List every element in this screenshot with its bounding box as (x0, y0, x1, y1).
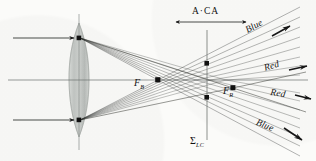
sigma-lc-label: ΣLC (190, 136, 204, 148)
blue-lower-arrow (284, 128, 302, 140)
chromatic-aberration-figure: A·CA FB FR ΣLC Blue Red Red Blue (0, 0, 316, 161)
red-lower-label: Red (270, 88, 287, 100)
aca-label: A·CA (192, 7, 219, 17)
lens-bottom-node-marker (77, 118, 82, 123)
focus-blue-marker (155, 77, 160, 82)
lens-top-node-marker (77, 36, 82, 41)
focus-red-label: FR (223, 86, 233, 98)
focus-red-subscript: R (229, 91, 233, 98)
diagram-canvas (0, 0, 316, 161)
incoming-rays (13, 38, 74, 120)
sigma-lower-node-marker (204, 95, 209, 100)
red-lower-arrow (295, 95, 311, 99)
focus-blue-subscript: B (140, 83, 144, 90)
focus-blue-label: FB (134, 78, 144, 90)
sigma-upper-node-marker (204, 61, 209, 66)
color-callout-arrows (272, 26, 311, 140)
red-upper-arrow (289, 66, 307, 70)
focus-markers (77, 36, 236, 123)
sigma-subscript: LC (196, 141, 204, 148)
